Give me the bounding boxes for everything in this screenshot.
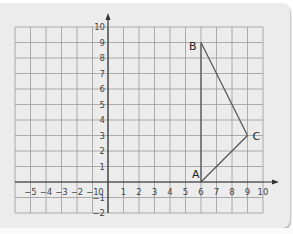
y-tick-label: 5 [100, 100, 105, 110]
segment-CA [201, 136, 248, 183]
x-tick-label: 7 [214, 187, 219, 197]
x-tick-label: 4 [167, 187, 172, 197]
x-tick-label: −4 [40, 187, 53, 197]
y-tick-label: 8 [100, 53, 105, 63]
y-tick-label: 6 [100, 84, 105, 94]
y-tick-label: −1 [92, 193, 105, 203]
y-tick-label: 7 [100, 69, 105, 79]
point-label-B: B [189, 40, 197, 53]
x-axis-arrow-icon [272, 180, 279, 185]
y-tick-label: 2 [100, 146, 105, 156]
x-tick-label: 2 [136, 187, 141, 197]
y-tick-label: 4 [100, 115, 105, 125]
point-label-A: A [192, 168, 200, 181]
x-tick-label: −2 [71, 187, 84, 197]
y-tick-label: 9 [100, 38, 105, 48]
x-tick-label: 6 [198, 187, 203, 197]
x-tick-label: 10 [258, 187, 269, 197]
y-tick-label: −2 [92, 208, 105, 218]
y-axis-arrow-icon [106, 13, 111, 20]
y-tick-label: 1 [100, 162, 105, 172]
x-tick-label: 8 [229, 187, 234, 197]
y-tick-label: 10 [94, 22, 105, 32]
y-tick-label: 3 [100, 131, 105, 141]
coordinate-plane: −5−4−3−2−1012345678910−2−112345678910ABC [0, 0, 293, 234]
x-tick-label: 3 [152, 187, 157, 197]
point-label-C: C [253, 130, 261, 143]
x-tick-label: 9 [245, 187, 250, 197]
x-tick-label: 5 [183, 187, 188, 197]
x-tick-label: −3 [55, 187, 68, 197]
x-tick-label: −5 [24, 187, 37, 197]
x-tick-label: 1 [121, 187, 126, 197]
